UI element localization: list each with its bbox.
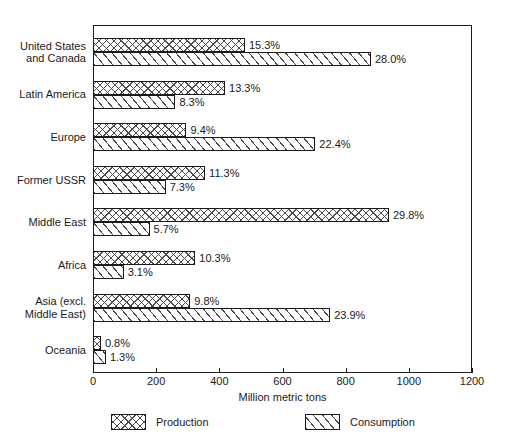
x-axis-tick-label: 1000 [397,375,421,387]
x-axis-title: Million metric tons [93,391,472,403]
bar-value-label: 10.3% [195,251,230,265]
category-label: Asia (excl. Middle East) [0,295,86,320]
x-axis: 020040060080010001200 [93,373,472,374]
bar-value-label: 0.8% [101,336,130,350]
bar-value-label: 1.3% [106,350,135,364]
legend-label: Consumption [350,414,415,430]
bar-production [93,336,101,350]
bar-value-label: 9.8% [190,294,219,308]
x-axis-tick [346,368,347,373]
bar-production [93,251,195,265]
bar-value-label: 5.7% [150,222,179,236]
plot-area: 15.3%28.0%13.3%8.3%9.4%22.4%11.3%7.3%29.… [93,25,472,373]
category-label: United States and Canada [0,40,86,65]
bar-value-label: 9.4% [186,123,215,137]
bar-value-label: 8.3% [175,95,204,109]
category-label: Europe [0,131,86,144]
category-label: Former USSR [0,174,86,187]
legend-swatch-consumption [305,414,340,430]
bar-consumption [93,180,166,194]
bar-value-label: 22.4% [315,137,350,151]
bar-value-label: 15.3% [245,38,280,52]
x-axis-tick-label: 400 [210,375,228,387]
x-axis-tick-label: 200 [147,375,165,387]
legend-swatch-production [111,414,146,430]
x-axis-tick [283,368,284,373]
bar-consumption [93,222,150,236]
bar-production [93,38,245,52]
category-axis-labels: United States and CanadaLatin AmericaEur… [0,25,86,373]
bar-value-label: 3.1% [124,265,153,279]
category-label: Latin America [0,88,86,101]
category-label: Africa [0,259,86,272]
bar-production [93,208,389,222]
bar-chart: United States and CanadaLatin AmericaEur… [0,0,506,448]
x-axis-tick [409,368,410,373]
legend-label: Production [156,414,209,430]
bar-value-label: 7.3% [166,180,195,194]
bar-production [93,123,186,137]
bar-consumption [93,308,330,322]
bar-production [93,166,205,180]
bar-value-label: 13.3% [225,81,260,95]
category-label: Oceania [0,344,86,357]
bar-consumption [93,137,315,151]
bar-consumption [93,350,106,364]
x-axis-tick [219,368,220,373]
x-axis-tick-label: 800 [336,375,354,387]
x-axis-tick [93,368,94,373]
bar-consumption [93,52,371,66]
x-axis-tick-label: 0 [90,375,96,387]
category-label: Middle East [0,216,86,229]
bar-production [93,81,225,95]
bar-value-label: 11.3% [205,166,239,180]
x-axis-tick [472,368,473,373]
legend: ProductionConsumption [93,412,472,436]
bar-consumption [93,265,124,279]
bar-value-label: 29.8% [389,208,424,222]
x-axis-tick-label: 600 [273,375,291,387]
bar-consumption [93,95,175,109]
bar-value-label: 23.9% [330,308,365,322]
bar-value-label: 28.0% [371,52,406,66]
bar-production [93,294,190,308]
x-axis-tick [156,368,157,373]
x-axis-tick-label: 1200 [460,375,484,387]
